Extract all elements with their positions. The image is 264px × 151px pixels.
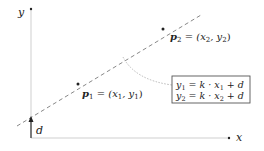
y-axis-label: y — [17, 6, 25, 19]
x-axis-label: x — [236, 131, 243, 144]
point-p1-label: p1 = (x1, y1) — [82, 88, 143, 101]
connector-curve — [123, 57, 172, 85]
point-p2-label: p2 = (x2, y2) — [170, 31, 231, 44]
point-p2 — [162, 28, 165, 31]
y-axis-arrow-icon — [30, 8, 32, 10]
x-axis-arrow-icon — [228, 137, 230, 139]
diagram-canvas: y x d p2 = (x2, y2) p1 = (x1, y1) y1 = k… — [0, 0, 264, 151]
intercept-label: d — [36, 124, 43, 137]
point-p1 — [77, 83, 80, 86]
